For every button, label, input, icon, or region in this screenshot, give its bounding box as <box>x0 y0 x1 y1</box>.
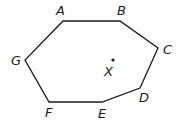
heptagon-diagram: ABCDEFG X <box>0 0 181 123</box>
vertex-label-a: A <box>55 3 65 18</box>
vertex-label-g: G <box>11 53 21 68</box>
vertex-label-d: D <box>139 90 149 105</box>
point-x-label: X <box>103 64 114 79</box>
vertex-label-b: B <box>117 3 126 18</box>
vertex-label-e: E <box>98 106 107 121</box>
vertex-label-c: C <box>163 42 173 57</box>
point-x-dot <box>111 58 114 61</box>
vertex-label-f: F <box>45 105 53 120</box>
